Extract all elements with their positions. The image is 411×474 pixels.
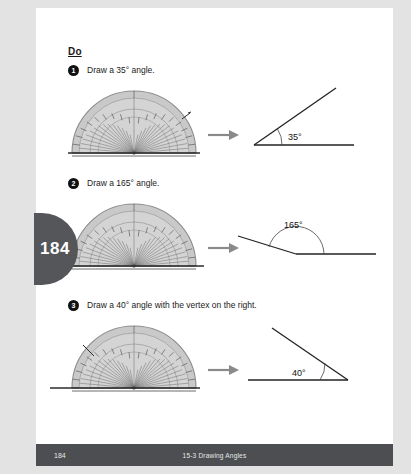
exercise-figures: 165° (36, 192, 393, 282)
protractor-diagram (64, 79, 204, 167)
exercise-item: 3 Draw a 40° angle with the vertex on th… (36, 298, 393, 408)
exercise-heading: 1 Draw a 35° angle. (68, 63, 155, 77)
protractor-icon (64, 79, 204, 167)
angle-result-diagram: 165° (236, 192, 386, 280)
page-number-tab-label: 184 (34, 239, 70, 259)
page-footer: 184 15-3 Drawing Angles (36, 444, 393, 466)
exercise-instruction: Draw a 165° angle. (87, 178, 159, 188)
exercise-instruction: Draw a 40° angle with the vertex on the … (87, 300, 257, 310)
do-heading: Do (68, 46, 82, 57)
angle-result-diagram: 35° (236, 79, 386, 167)
worksheet-content: Do 1 Draw a 35° angle. (36, 8, 393, 436)
exercise-figures: 35° (36, 79, 393, 169)
exercise-item: 1 Draw a 35° angle. (36, 63, 393, 168)
protractor-icon (64, 314, 204, 402)
footer-lesson-title: 15-3 Drawing Angles (36, 452, 393, 459)
exercise-number-badge: 1 (68, 65, 79, 76)
worksheet-page: 184 Do 1 Draw a 35° angle. (36, 8, 393, 466)
exercise-heading: 3 Draw a 40° angle with the vertex on th… (68, 298, 257, 312)
angle-label: 35° (288, 132, 302, 142)
protractor-diagram (64, 192, 204, 280)
protractor-icon (64, 192, 204, 280)
angle-result-diagram: 40° (236, 314, 386, 402)
angle-label: 165° (284, 220, 303, 230)
exercise-number-badge: 2 (68, 178, 79, 189)
exercise-heading: 2 Draw a 165° angle. (68, 176, 159, 190)
footer-page-number: 184 (54, 452, 66, 459)
exercise-number-badge: 3 (68, 300, 79, 311)
exercise-instruction: Draw a 35° angle. (87, 65, 155, 75)
exercise-item: 2 Draw a 165° angle. (36, 176, 393, 286)
protractor-diagram (64, 314, 204, 402)
angle-label: 40° (292, 368, 306, 378)
exercise-figures: 40° (36, 314, 393, 404)
